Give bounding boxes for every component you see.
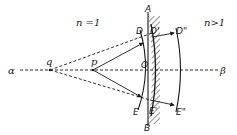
label-q: q	[46, 56, 52, 67]
label-E: E	[133, 107, 139, 117]
point-p	[92, 69, 95, 72]
label-D: D	[136, 26, 143, 36]
label-medium-left: n =1	[76, 17, 100, 28]
ray-p-lower	[93, 70, 141, 97]
label-D-prime: D'	[150, 26, 159, 36]
label-O: O	[141, 60, 148, 70]
label-E-prime: E'	[149, 106, 157, 116]
ray-q-lower	[50, 70, 150, 100]
point-q	[49, 69, 52, 72]
label-D-double-prime: D"	[176, 26, 187, 36]
label-E-double-prime: E"	[176, 107, 186, 117]
label-p: p	[91, 56, 98, 67]
label-alpha: α	[8, 65, 15, 76]
refraction-diagram: n =1 n>1 α β q p O A B D D' D" E E' E"	[0, 0, 237, 135]
label-medium-right: n>1	[204, 17, 225, 28]
ray-p-upper	[93, 43, 143, 70]
label-B: B	[144, 123, 150, 133]
label-A: A	[144, 4, 151, 14]
ray-q-upper	[50, 33, 152, 70]
label-beta: β	[219, 65, 226, 76]
